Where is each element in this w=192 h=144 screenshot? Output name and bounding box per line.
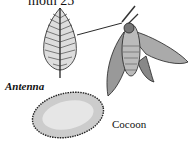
- cocoon-label: Cocoon: [112, 118, 146, 130]
- antenna-icon: [44, 8, 77, 78]
- diagram-canvas: [0, 0, 192, 144]
- antenna-label: Antenna: [5, 80, 44, 92]
- pointer-line: [77, 23, 122, 35]
- moth-icon: [107, 6, 188, 96]
- cocoon-icon: [28, 86, 108, 144]
